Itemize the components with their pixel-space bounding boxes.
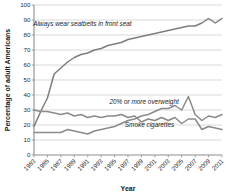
y-axis-title: Percentage of adult Americans bbox=[4, 29, 12, 132]
series-label: Always wear seatbelts in front seat bbox=[32, 20, 132, 28]
x-tick-label: 2005 bbox=[170, 157, 185, 172]
y-tick-label: 70 bbox=[24, 46, 31, 53]
line-chart: 0102030405060708090100 19831985198719891… bbox=[0, 0, 228, 195]
y-tick-label: 80 bbox=[24, 31, 31, 38]
x-tick-label: 1987 bbox=[49, 157, 64, 172]
x-tick-label: 1983 bbox=[22, 157, 37, 172]
x-tick-label: 1985 bbox=[35, 157, 50, 172]
y-tick-label: 60 bbox=[24, 61, 31, 68]
chart-container: 0102030405060708090100 19831985198719891… bbox=[0, 0, 228, 195]
y-axis-tick-labels: 0102030405060708090100 bbox=[20, 1, 31, 158]
x-axis-title: Year bbox=[121, 185, 136, 192]
x-tick-label: 2001 bbox=[143, 157, 158, 172]
x-tick-label: 2003 bbox=[156, 157, 171, 172]
x-axis-tick-labels: 1983198519871989199119931995199719992001… bbox=[22, 157, 225, 172]
x-tick-label: 1997 bbox=[116, 157, 131, 172]
x-tick-label: 1989 bbox=[62, 157, 77, 172]
series-label: 20% or more overweight bbox=[108, 98, 178, 106]
x-tick-label: 2011 bbox=[210, 157, 225, 172]
x-tick-label: 1999 bbox=[129, 157, 144, 172]
x-tick-label: 2007 bbox=[183, 157, 198, 172]
y-tick-label: 90 bbox=[24, 16, 31, 23]
x-tick-label: 2009 bbox=[197, 157, 212, 172]
y-tick-label: 10 bbox=[24, 136, 31, 143]
y-tick-label: 20 bbox=[24, 121, 31, 128]
x-tick-label: 1995 bbox=[103, 157, 118, 172]
y-tick-label: 30 bbox=[24, 106, 31, 113]
x-tick-label: 1991 bbox=[76, 157, 91, 172]
y-tick-label: 100 bbox=[20, 1, 31, 8]
y-tick-label: 40 bbox=[24, 91, 31, 98]
x-tick-label: 1993 bbox=[89, 157, 104, 172]
y-tick-label: 0 bbox=[27, 151, 31, 158]
y-tick-label: 50 bbox=[24, 76, 31, 83]
series-label: Smoke cigarettes bbox=[125, 121, 175, 129]
